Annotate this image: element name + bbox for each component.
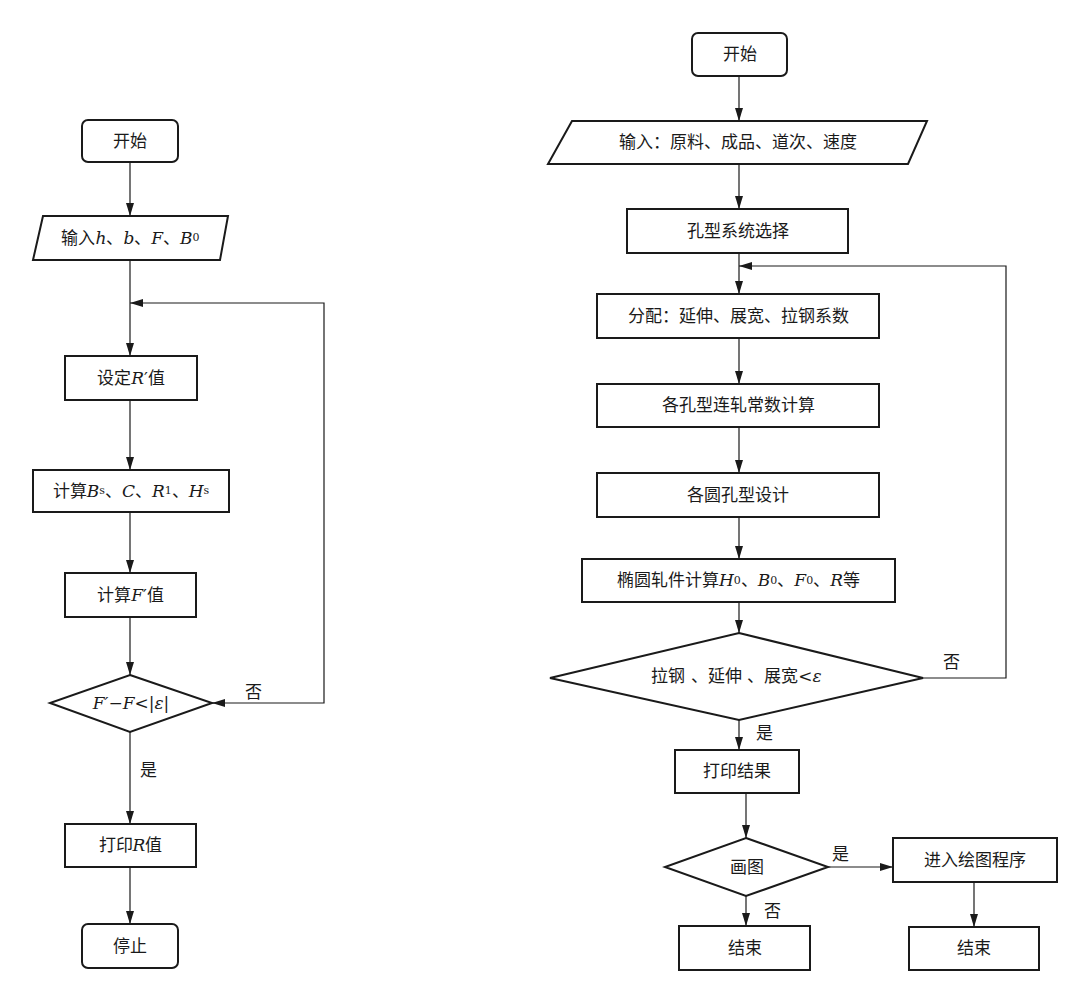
var-r1: R (152, 483, 165, 500)
var-h: h (95, 230, 106, 247)
var-b0: B (180, 230, 193, 247)
text: 开始 (723, 46, 757, 63)
sep: 、 (172, 483, 189, 500)
left-input-label: 输入 h、 b、 F、 B0 (33, 216, 228, 260)
right-round-pass-label: 各圆孔型设计 (597, 473, 879, 517)
left-connectors (126, 162, 324, 924)
right-tandem-constant-label: 各孔型连轧常数计算 (597, 384, 879, 427)
text: 孔型系统选择 (687, 223, 789, 240)
right-end-left-label: 结束 (679, 926, 810, 970)
flowchart-canvas: 开始 输入 h、 b、 F、 B0 设定 R′ 值 计算 Bs、 C、 R1、 … (0, 0, 1084, 1006)
condition-op: < (798, 668, 812, 685)
var-hs: H (189, 483, 204, 500)
var-b: b (123, 230, 134, 247)
text: 分配：延伸、展宽、拉钢系数 (628, 308, 849, 325)
left-set-r-label: 设定 R′ 值 (65, 356, 197, 400)
var-r: R (133, 837, 146, 854)
var-c: C (122, 483, 135, 500)
sep: 、 (163, 230, 180, 247)
condition-op: < (134, 695, 148, 712)
right-decision-label: 拉钢 、延伸 、展宽 < ε (550, 633, 923, 720)
text: 椭圆轧件计算 (617, 572, 719, 589)
text: 画图 (730, 859, 764, 876)
right-draw-yes-label: 是 (832, 846, 849, 863)
left-no-label: 否 (245, 684, 262, 701)
var-f: F (151, 230, 163, 247)
left-start-text: 开始 (113, 133, 147, 150)
condition-rhs: |ε| (149, 695, 170, 712)
left-start-label: 开始 (82, 120, 178, 162)
left-stop-label: 停止 (82, 924, 178, 968)
right-yes-label: 是 (756, 725, 773, 742)
sep: 、 (105, 483, 122, 500)
text: 设定 (97, 370, 131, 387)
sep: 、 (741, 572, 758, 589)
text: 打印 (99, 837, 133, 854)
text: 值 (148, 370, 165, 387)
right-draw-decision-label: 画图 (665, 838, 828, 896)
left-decision-label: F′−F < |ε| (50, 675, 212, 732)
text: 结束 (957, 940, 991, 957)
var-r: R (830, 572, 843, 589)
text: 停止 (113, 938, 147, 955)
var-r: R (131, 370, 144, 387)
text: 等 (843, 572, 860, 589)
right-no-label: 否 (943, 654, 960, 671)
condition-var: ε (812, 668, 821, 685)
var-f: F (131, 587, 143, 604)
text: 各圆孔型设计 (687, 487, 789, 504)
left-input-prefix: 输入 (61, 230, 95, 247)
text: 输入：原料、成品、道次、速度 (619, 134, 857, 151)
text: 计算 (97, 587, 131, 604)
text: 值 (147, 587, 164, 604)
left-print-label: 打印 R 值 (65, 824, 196, 867)
text: 结束 (728, 940, 762, 957)
text: 进入绘图程序 (924, 852, 1026, 869)
sep: 、 (777, 572, 794, 589)
right-input-label: 输入：原料、成品、道次、速度 (548, 121, 927, 164)
text: 打印结果 (703, 763, 771, 780)
left-calc-f-label: 计算 F′ 值 (65, 573, 196, 617)
right-draw-no-label: 否 (764, 903, 781, 920)
sep: 、 (134, 230, 151, 247)
condition-lhs: F′−F (93, 695, 135, 712)
right-print-result-label: 打印结果 (675, 750, 799, 793)
sep: 、 (135, 483, 152, 500)
condition-text: 拉钢 、延伸 、展宽 (651, 668, 798, 685)
text: 计算 (53, 483, 87, 500)
right-distribute-label: 分配：延伸、展宽、拉钢系数 (597, 294, 879, 338)
right-start-label: 开始 (692, 33, 787, 76)
text: 值 (145, 837, 162, 854)
var-f0: F (794, 572, 806, 589)
left-yes-label: 是 (140, 762, 157, 779)
var-b0: B (758, 572, 771, 589)
sep: 、 (813, 572, 830, 589)
right-oval-calc-label: 椭圆轧件计算 H0、 B0、 F0、 R 等 (582, 559, 895, 602)
right-enter-drawing-label: 进入绘图程序 (893, 838, 1057, 882)
left-calc-params-label: 计算 Bs、 C、 R1、 Hs (33, 470, 229, 512)
sep: 、 (106, 230, 123, 247)
var-bs: B (87, 483, 100, 500)
text: 各孔型连轧常数计算 (662, 397, 815, 414)
var-h0: H (719, 572, 734, 589)
right-pass-system-label: 孔型系统选择 (627, 209, 848, 253)
right-end-right-label: 结束 (909, 927, 1039, 970)
